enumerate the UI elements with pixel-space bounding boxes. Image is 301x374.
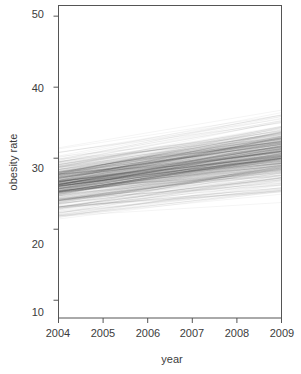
x-axis-title: year (130, 353, 214, 365)
y-tick-label-40: 40 (22, 82, 44, 94)
x-tick-label-2009: 2009 (260, 327, 301, 339)
y-tick-label-30: 30 (22, 162, 44, 174)
x-tick-label-2004: 2004 (36, 327, 80, 339)
y-tick-label-10: 10 (22, 306, 44, 318)
x-tick-label-2005: 2005 (81, 327, 125, 339)
y-axis-title: obesity rate (7, 122, 19, 202)
x-tick-label-2006: 2006 (126, 327, 170, 339)
plot-canvas (0, 0, 301, 374)
y-tick-label-20: 20 (22, 238, 44, 250)
x-tick-label-2008: 2008 (215, 327, 259, 339)
y-tick-label-50: 50 (22, 8, 44, 20)
x-tick-label-2007: 2007 (170, 327, 214, 339)
figure-spaghetti-obesity-rate: 50 40 30 20 10 2004 2005 2006 2007 2008 … (0, 0, 301, 374)
